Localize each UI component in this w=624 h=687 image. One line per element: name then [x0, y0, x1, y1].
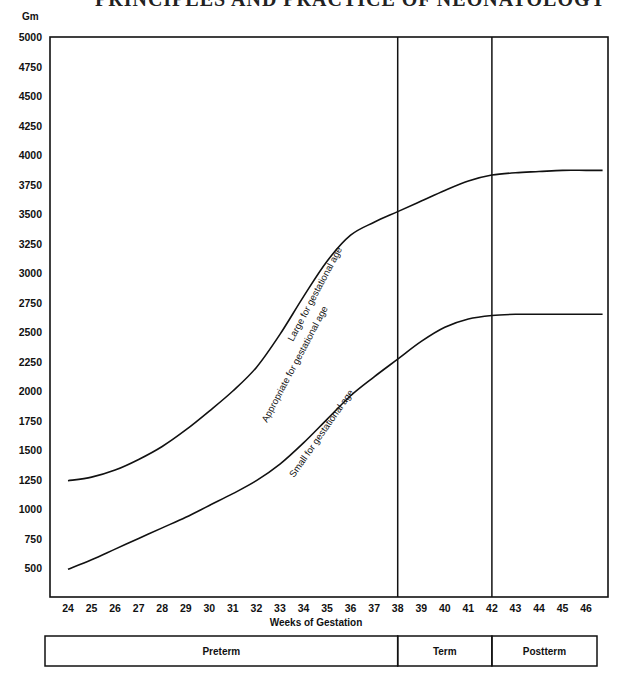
period-label: Postterm: [523, 646, 566, 657]
y-tick-label: 4250: [19, 120, 43, 132]
y-tick-label: 2500: [19, 326, 43, 338]
y-tick-label: 3000: [19, 267, 43, 279]
y-tick-label: 4500: [19, 90, 43, 102]
plot-frame: [50, 37, 608, 597]
y-tick-label: 3500: [19, 208, 43, 220]
y-tick-label: 4750: [19, 61, 43, 73]
x-tick-label: 42: [486, 602, 498, 614]
period-label: Preterm: [202, 646, 240, 657]
x-tick-label: 24: [62, 602, 74, 614]
x-tick-label: 37: [368, 602, 380, 614]
x-tick-label: 31: [227, 602, 239, 614]
x-tick-label: 32: [251, 602, 263, 614]
y-tick-label: 4000: [19, 149, 43, 161]
x-tick-label: 25: [86, 602, 98, 614]
y-tick-label: 3250: [19, 238, 43, 250]
y-tick-label: 2750: [19, 297, 43, 309]
y-tick-label: 1750: [19, 415, 43, 427]
x-tick-label: 45: [557, 602, 569, 614]
x-tick-label: 36: [345, 602, 357, 614]
x-tick-label: 46: [580, 602, 592, 614]
x-tick-label: 28: [156, 602, 168, 614]
x-tick-label: 33: [274, 602, 286, 614]
x-tick-label: 27: [133, 602, 145, 614]
y-tick-label: 3750: [19, 179, 43, 191]
x-tick-label: 39: [415, 602, 427, 614]
x-tick-label: 38: [392, 602, 404, 614]
y-tick-label: 2250: [19, 356, 43, 368]
lower-percentile-curve: [68, 314, 603, 569]
x-tick-label: 41: [463, 602, 475, 614]
growth-chart: Gm50075010001250150017502000225025002750…: [0, 0, 624, 687]
upper-percentile-curve: [68, 170, 603, 480]
x-tick-label: 26: [109, 602, 121, 614]
y-tick-label: 1500: [19, 444, 43, 456]
y-tick-label: 1000: [19, 503, 43, 515]
curve-annotation: Small for gestational age: [287, 387, 356, 479]
y-tick-label: 5000: [19, 31, 43, 43]
y-tick-label: 2000: [19, 385, 43, 397]
x-tick-label: 43: [510, 602, 522, 614]
period-label: Term: [433, 646, 457, 657]
x-tick-label: 30: [203, 602, 215, 614]
x-tick-label: 34: [298, 602, 310, 614]
y-tick-label: 1250: [19, 474, 43, 486]
x-tick-label: 44: [533, 602, 545, 614]
x-tick-label: 40: [439, 602, 451, 614]
x-tick-label: 29: [180, 602, 192, 614]
y-tick-label: 750: [24, 533, 42, 545]
y-tick-label: 500: [24, 562, 42, 574]
x-tick-label: 35: [321, 602, 333, 614]
x-axis-label: Weeks of Gestation: [270, 617, 363, 628]
y-axis-label: Gm: [22, 11, 39, 22]
